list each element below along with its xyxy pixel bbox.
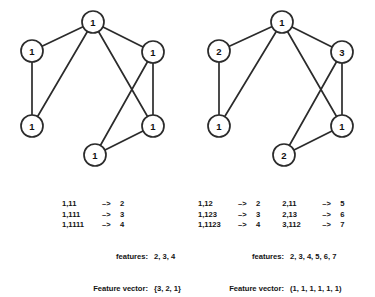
feature-vector-label: Feature vector:: [62, 284, 148, 295]
node-upper-left[interactable]: 2: [208, 40, 230, 62]
feature-vector-value: {3, 2, 1}: [148, 284, 181, 295]
rule-arrow: –>: [322, 220, 340, 231]
node-lower-right-circle[interactable]: [142, 115, 164, 137]
feature-vector-value: (1, 1, 1, 1, 1, 1): [284, 284, 342, 295]
node-lower-left[interactable]: 1: [208, 115, 230, 137]
node-lower-left-circle[interactable]: [208, 115, 230, 137]
feature-vector-row: Feature vector:{3, 2, 1}: [62, 284, 181, 295]
node-lower-left-circle[interactable]: [21, 115, 43, 137]
rule-result: 2: [256, 199, 260, 210]
graph-right-panel: 1 2 3 1 1: [187, 0, 375, 178]
node-bottom-circle[interactable]: [273, 144, 295, 166]
rule-pattern: 1,1111: [62, 220, 102, 231]
node-upper-left-circle[interactable]: [21, 40, 43, 62]
rule-row: 3,112–> 7: [282, 220, 344, 231]
node-top-circle[interactable]: [82, 11, 104, 33]
graph-left-edges: [32, 22, 153, 155]
node-upper-right[interactable]: 3: [331, 41, 353, 63]
node-bottom[interactable]: 1: [84, 144, 106, 166]
graph-right-nodes: 1 2 3 1 1: [208, 11, 353, 166]
rule-result: 6: [340, 210, 344, 221]
caption-left: 1,11–> 2 1,111–> 3 1,1111–> 4 features:2…: [62, 178, 181, 297]
rule-arrow: –>: [238, 199, 256, 210]
rule-row: 1,11–> 2: [62, 199, 124, 210]
node-bottom-circle[interactable]: [84, 144, 106, 166]
features-row: features:2, 3, 4: [62, 252, 181, 263]
rule-result: 3: [256, 210, 260, 221]
caption-right-rule-columns: 1,12–> 2 1,123–> 3 1,1123–> 4 2,11–> 5 2…: [198, 199, 344, 231]
node-upper-right-circle[interactable]: [142, 41, 164, 63]
rule-row: 1,123–> 3: [198, 210, 260, 221]
rule-row: 1,12–> 2: [198, 199, 260, 210]
edge-top-lowerleft: [32, 22, 93, 126]
caption-right: 1,12–> 2 1,123–> 3 1,1123–> 4 2,11–> 5 2…: [198, 178, 344, 297]
rule-pattern: 1,123: [198, 210, 238, 221]
graph-left-svg: 1 1 1 1 1: [0, 0, 188, 178]
rule-result: 5: [340, 199, 344, 210]
node-lower-right[interactable]: 1: [142, 115, 164, 137]
feature-vector-row: Feature vector:(1, 1, 1, 1, 1, 1): [198, 284, 344, 295]
rule-arrow: –>: [322, 210, 340, 221]
features-label: features:: [198, 252, 284, 263]
rule-arrow: –>: [102, 199, 120, 210]
features-label: features:: [62, 252, 148, 263]
features-value: 2, 3, 4, 5, 6, 7: [284, 252, 336, 263]
caption-right-rules-column-2: 2,11–> 5 2,13–> 6 3,112–> 7: [282, 199, 344, 231]
edge-top-lowerleft: [219, 22, 282, 126]
rule-row: 1,1111–> 4: [62, 220, 124, 231]
rule-pattern: 2,13: [282, 210, 322, 221]
caption-left-rules: 1,11–> 2 1,111–> 3 1,1111–> 4: [62, 199, 124, 231]
rule-arrow: –>: [238, 210, 256, 221]
node-upper-right-circle[interactable]: [331, 41, 353, 63]
rule-arrow: –>: [238, 220, 256, 231]
rule-arrow: –>: [102, 220, 120, 231]
rule-pattern: 1,111: [62, 210, 102, 221]
rule-pattern: 1,12: [198, 199, 238, 210]
features-row: features:2, 3, 4, 5, 6, 7: [198, 252, 344, 263]
node-bottom[interactable]: 2: [273, 144, 295, 166]
rule-arrow: –>: [102, 210, 120, 221]
caption-left-rule-columns: 1,11–> 2 1,111–> 3 1,1111–> 4: [62, 199, 181, 231]
node-lower-right-circle[interactable]: [331, 115, 353, 137]
rule-arrow: –>: [322, 199, 340, 210]
features-value: 2, 3, 4: [148, 252, 175, 263]
graph-right-svg: 1 2 3 1 1: [187, 0, 375, 178]
node-lower-right[interactable]: 1: [331, 115, 353, 137]
rule-result: 3: [120, 210, 124, 221]
node-top[interactable]: 1: [271, 11, 293, 33]
rule-result: 4: [256, 220, 260, 231]
rule-pattern: 3,112: [282, 220, 322, 231]
rule-result: 7: [340, 220, 344, 231]
rule-result: 2: [120, 199, 124, 210]
rule-row: 1,111–> 3: [62, 210, 124, 221]
rule-row: 2,11–> 5: [282, 199, 344, 210]
node-top-circle[interactable]: [271, 11, 293, 33]
rule-pattern: 1,11: [62, 199, 102, 210]
node-upper-left[interactable]: 1: [21, 40, 43, 62]
graph-right-edges: [219, 22, 342, 155]
rule-pattern: 2,11: [282, 199, 322, 210]
rule-result: 4: [120, 220, 124, 231]
rule-pattern: 1,1123: [198, 220, 238, 231]
feature-vector-label: Feature vector:: [198, 284, 284, 295]
rule-row: 2,13–> 6: [282, 210, 344, 221]
node-lower-left[interactable]: 1: [21, 115, 43, 137]
rule-row: 1,1123–> 4: [198, 220, 260, 231]
graph-left-panel: 1 1 1 1 1: [0, 0, 188, 178]
node-top[interactable]: 1: [82, 11, 104, 33]
caption-right-rules-column-1: 1,12–> 2 1,123–> 3 1,1123–> 4: [198, 199, 260, 231]
graph-left-nodes: 1 1 1 1 1: [21, 11, 164, 166]
node-upper-left-circle[interactable]: [208, 40, 230, 62]
node-upper-right[interactable]: 1: [142, 41, 164, 63]
